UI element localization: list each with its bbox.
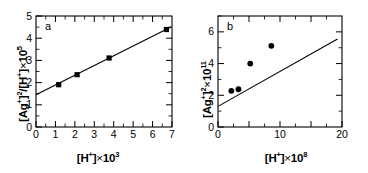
y-title-charge: + bbox=[15, 99, 24, 103]
y-title-exponent: 5 bbox=[15, 46, 24, 50]
y-title-seg: [Ag bbox=[201, 99, 213, 118]
y-title-seg: [Ag bbox=[17, 103, 29, 122]
panel-b: 0 10 20 0 2 4 6 b [Ag+]2×1011 [H+]×108 bbox=[184, 0, 368, 173]
x-title-exponent: 3 bbox=[115, 150, 119, 159]
x-title-mantissa: 10 bbox=[103, 152, 115, 164]
panel-b-x-top-ticks bbox=[249, 16, 311, 22]
svg-text:2: 2 bbox=[72, 128, 78, 140]
svg-text:3: 3 bbox=[91, 128, 97, 140]
y-title-square: 2 bbox=[199, 88, 208, 92]
svg-text:5: 5 bbox=[130, 128, 136, 140]
svg-text:4: 4 bbox=[111, 128, 117, 140]
svg-text:0: 0 bbox=[26, 121, 32, 133]
panel-a-data-points bbox=[56, 27, 169, 87]
y-title-times: × bbox=[17, 63, 29, 70]
data-point bbox=[236, 86, 242, 92]
svg-text:20: 20 bbox=[336, 128, 348, 140]
panel-a-tag: a bbox=[45, 20, 51, 32]
svg-text:0: 0 bbox=[208, 121, 214, 133]
y-title-bracket: ] bbox=[201, 92, 213, 96]
y-title-div: /[H bbox=[17, 77, 29, 92]
data-point bbox=[164, 27, 169, 32]
data-point bbox=[268, 43, 274, 49]
svg-text:6: 6 bbox=[150, 128, 156, 140]
y-title-charge: + bbox=[199, 95, 208, 99]
panel-b-x-major-ticks bbox=[218, 121, 342, 127]
y-title-bracket: ] bbox=[17, 96, 29, 100]
panel-b-y-right-ticks bbox=[336, 32, 342, 95]
data-point bbox=[107, 55, 112, 60]
panel-a-y-axis-title: [Ag+]2/[H+]×105 bbox=[16, 46, 29, 122]
x-title-mantissa: 10 bbox=[291, 152, 303, 164]
svg-text:4: 4 bbox=[26, 32, 32, 44]
panel-a-axes-frame bbox=[36, 16, 172, 127]
data-point bbox=[56, 82, 61, 87]
y-title-charge2: + bbox=[15, 73, 24, 77]
y-title-times: × bbox=[201, 81, 213, 88]
panel-b-data-points bbox=[228, 43, 274, 94]
panel-b-fit-line bbox=[218, 39, 338, 106]
x-title-exponent: 8 bbox=[303, 150, 307, 159]
panel-b-x-axis-title: [H+]×108 bbox=[194, 151, 368, 164]
panel-b-x-tick-labels: 0 10 20 bbox=[215, 128, 348, 140]
figure-container: 0 1 2 3 4 5 6 7 0 1 2 3 4 5 bbox=[0, 0, 368, 173]
y-title-close2: ] bbox=[17, 69, 29, 73]
panel-b-y-axis-title: [Ag+]2×1011 bbox=[200, 61, 213, 118]
y-title-mantissa: 10 bbox=[201, 69, 213, 81]
panel-a-x-tick-labels: 0 1 2 3 4 5 6 7 bbox=[33, 128, 175, 140]
panel-a: 0 1 2 3 4 5 6 7 0 1 2 3 4 5 bbox=[0, 0, 184, 173]
data-point bbox=[228, 88, 234, 94]
data-point bbox=[247, 61, 253, 67]
svg-text:6: 6 bbox=[208, 25, 214, 37]
y-title-mantissa: 10 bbox=[17, 50, 29, 62]
svg-text:0: 0 bbox=[215, 128, 221, 140]
panel-b-tag: b bbox=[227, 20, 233, 32]
y-title-square: 2 bbox=[15, 92, 24, 96]
svg-text:10: 10 bbox=[274, 128, 286, 140]
x-title-base: [H bbox=[77, 152, 89, 164]
panel-a-x-axis-title: [H+]×103 bbox=[6, 151, 190, 164]
svg-text:5: 5 bbox=[26, 10, 32, 22]
svg-text:1: 1 bbox=[53, 128, 59, 140]
svg-text:7: 7 bbox=[169, 128, 175, 140]
svg-text:0: 0 bbox=[33, 128, 39, 140]
x-title-base: [H bbox=[265, 152, 277, 164]
data-point bbox=[75, 72, 80, 77]
y-title-exponent: 11 bbox=[199, 61, 208, 69]
